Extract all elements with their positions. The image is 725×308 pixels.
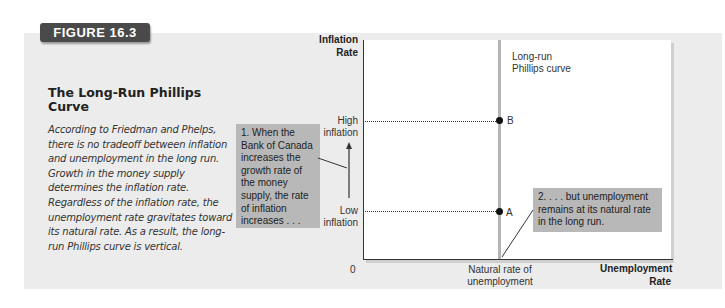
x-axis-label: Unemployment Rate <box>600 262 671 288</box>
figure-caption: According to Friedman and Phelps, there … <box>48 123 233 254</box>
curve-label-line1: Long-run <box>512 51 571 63</box>
x-axis-label-line1: Unemployment <box>600 262 671 275</box>
low-inflation-guide <box>365 211 498 212</box>
point-a-label: A <box>506 207 513 219</box>
x-axis <box>363 259 673 260</box>
point-a-marker <box>496 208 503 215</box>
natural-label-line1: Natural rate of <box>460 264 540 276</box>
y-axis-label: Inflation Rate <box>300 33 358 59</box>
y-axis-label-line1: Inflation <box>300 33 358 46</box>
natural-label-line2: unemployment <box>460 276 540 288</box>
y-axis <box>363 40 364 260</box>
curve-label: Long-run Phillips curve <box>512 51 571 75</box>
high-inflation-guide <box>365 121 498 122</box>
annotation-money-growth: 1. When the Bank of Canada increases the… <box>236 124 320 228</box>
natural-rate-label: Natural rate of unemployment <box>460 264 540 288</box>
curve-label-line2: Phillips curve <box>512 63 571 75</box>
figure-badge: FIGURE 16.3 <box>40 23 150 42</box>
origin-label: 0 <box>350 264 356 276</box>
point-b-label: B <box>507 115 514 127</box>
annotation-natural-rate: 2. . . . but unemployment remains at its… <box>533 188 662 232</box>
figure-title: The Long-Run Phillips Curve <box>48 86 218 114</box>
long-run-phillips-curve <box>498 40 501 260</box>
y-axis-label-line2: Rate <box>300 46 358 59</box>
point-b-marker <box>496 117 503 124</box>
x-axis-label-line2: Rate <box>600 275 671 288</box>
